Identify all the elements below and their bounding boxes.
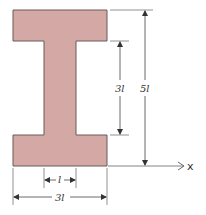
height-extension-lines — [110, 10, 153, 135]
total-height-label: 5l — [140, 83, 150, 94]
flange-width-label: 3l — [55, 192, 65, 203]
x-axis-label: x — [187, 160, 194, 173]
web-height-label: 3l — [115, 83, 125, 94]
web-width-label: l — [58, 174, 61, 185]
i-beam-diagram: 3l 5l x l 3l — [0, 0, 206, 215]
i-beam-cross-section — [13, 10, 107, 166]
x-axis — [108, 162, 184, 170]
